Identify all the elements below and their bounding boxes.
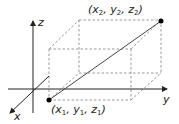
y-axis-label: y — [163, 94, 170, 105]
point-p1 — [47, 98, 52, 103]
point-p2-label: (x2, y2, z2) — [88, 4, 143, 17]
point-p1-label: (x1, y1, z1) — [51, 104, 106, 117]
x-axis — [10, 76, 49, 113]
z-axis-label: z — [38, 17, 44, 28]
point-p2 — [159, 19, 164, 24]
x-axis-label: x — [14, 111, 21, 122]
